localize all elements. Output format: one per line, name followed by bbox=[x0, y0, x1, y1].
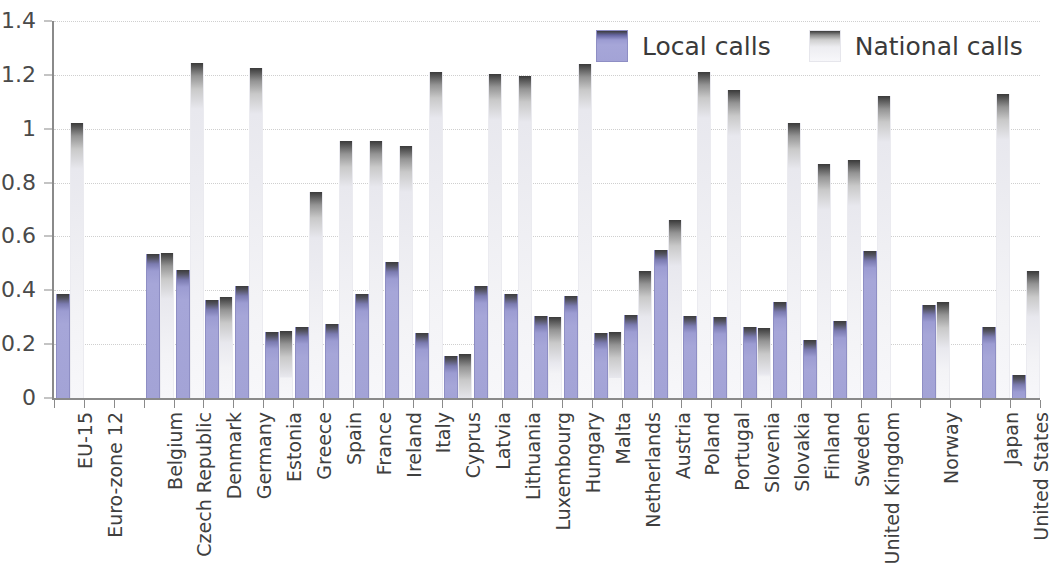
bar-group[interactable] bbox=[920, 21, 950, 398]
bar-group[interactable] bbox=[114, 21, 144, 398]
bar-group[interactable] bbox=[472, 21, 502, 398]
bar-local-calls[interactable] bbox=[355, 294, 369, 398]
bar-national-calls[interactable] bbox=[608, 332, 622, 398]
legend-entry[interactable]: Local calls bbox=[596, 30, 771, 62]
bar-national-calls[interactable] bbox=[190, 63, 204, 398]
bar-local-calls[interactable] bbox=[1012, 375, 1026, 398]
bar-local-calls[interactable] bbox=[683, 316, 697, 398]
bar-local-calls[interactable] bbox=[444, 356, 458, 398]
bar-national-calls[interactable] bbox=[668, 220, 682, 398]
x-tick-mark bbox=[174, 400, 175, 408]
bar-local-calls[interactable] bbox=[504, 294, 518, 398]
bar-group[interactable] bbox=[293, 21, 323, 398]
bar-local-calls[interactable] bbox=[56, 294, 70, 398]
bar-group[interactable] bbox=[592, 21, 622, 398]
bar-group[interactable] bbox=[771, 21, 801, 398]
bar-national-calls[interactable] bbox=[518, 76, 532, 398]
bar-local-calls[interactable] bbox=[982, 327, 996, 398]
bar-national-calls[interactable] bbox=[638, 271, 652, 398]
bar-local-calls[interactable] bbox=[803, 340, 817, 398]
bar-local-calls[interactable] bbox=[474, 286, 488, 398]
bar-group[interactable] bbox=[950, 21, 980, 398]
bar-national-calls[interactable] bbox=[817, 164, 831, 398]
bar-national-calls[interactable] bbox=[219, 297, 233, 398]
bar-local-calls[interactable] bbox=[594, 333, 608, 398]
bar-local-calls[interactable] bbox=[863, 251, 877, 398]
bar-group[interactable] bbox=[861, 21, 891, 398]
bar-national-calls[interactable] bbox=[847, 160, 861, 398]
x-tick-mark bbox=[1040, 400, 1041, 408]
bar-group[interactable] bbox=[681, 21, 711, 398]
bar-national-calls[interactable] bbox=[877, 96, 891, 398]
bar-group[interactable] bbox=[233, 21, 263, 398]
bar-group[interactable] bbox=[831, 21, 861, 398]
bar-local-calls[interactable] bbox=[205, 300, 219, 398]
bar-national-calls[interactable] bbox=[429, 72, 443, 398]
bar-group[interactable] bbox=[383, 21, 413, 398]
bar-local-calls[interactable] bbox=[265, 332, 279, 398]
bar-local-calls[interactable] bbox=[922, 305, 936, 398]
bar-local-calls[interactable] bbox=[743, 327, 757, 398]
bar-national-calls[interactable] bbox=[548, 317, 562, 398]
bar-group[interactable] bbox=[174, 21, 204, 398]
bar-local-calls[interactable] bbox=[385, 262, 399, 398]
bar-national-calls[interactable] bbox=[458, 354, 472, 398]
bar-national-calls[interactable] bbox=[279, 331, 293, 398]
bar-national-calls[interactable] bbox=[249, 68, 263, 398]
bar-local-calls[interactable] bbox=[654, 250, 668, 398]
bar-local-calls[interactable] bbox=[235, 286, 249, 398]
bar-local-calls[interactable] bbox=[624, 315, 638, 398]
bar-local-calls[interactable] bbox=[146, 254, 160, 398]
bar-group[interactable] bbox=[353, 21, 383, 398]
bar-local-calls[interactable] bbox=[176, 270, 190, 398]
bar-group[interactable] bbox=[532, 21, 562, 398]
bar-group[interactable] bbox=[54, 21, 84, 398]
bar-national-calls[interactable] bbox=[399, 146, 413, 398]
bar-national-calls[interactable] bbox=[309, 192, 323, 398]
bar-group[interactable] bbox=[891, 21, 921, 398]
bar-group[interactable] bbox=[652, 21, 682, 398]
bar-national-calls[interactable] bbox=[339, 141, 353, 398]
bar-national-calls[interactable] bbox=[578, 64, 592, 398]
bar-local-calls[interactable] bbox=[773, 302, 787, 398]
bar-group[interactable] bbox=[741, 21, 771, 398]
bar-local-calls[interactable] bbox=[713, 317, 727, 398]
bar-national-calls[interactable] bbox=[996, 94, 1010, 398]
bar-local-calls[interactable] bbox=[564, 296, 578, 398]
bar-local-calls[interactable] bbox=[415, 333, 429, 398]
bar-national-calls[interactable] bbox=[936, 302, 950, 398]
bar-group[interactable] bbox=[203, 21, 233, 398]
bar-group[interactable] bbox=[502, 21, 532, 398]
bar-national-calls[interactable] bbox=[727, 90, 741, 398]
bar-national-calls[interactable] bbox=[488, 74, 502, 398]
bar-local-calls[interactable] bbox=[325, 324, 339, 398]
x-tick-mark bbox=[532, 400, 533, 408]
bar-national-calls[interactable] bbox=[697, 72, 711, 398]
bar-group[interactable] bbox=[84, 21, 114, 398]
bar-national-calls[interactable] bbox=[160, 253, 174, 398]
bar-group[interactable] bbox=[263, 21, 293, 398]
bar-group[interactable] bbox=[801, 21, 831, 398]
bar-local-calls[interactable] bbox=[295, 327, 309, 398]
y-tick-label: 0.8 bbox=[1, 172, 36, 194]
bar-group[interactable] bbox=[562, 21, 592, 398]
x-axis-label: Sweden bbox=[853, 412, 872, 487]
legend-entry[interactable]: National calls bbox=[809, 30, 1023, 62]
bar-national-calls[interactable] bbox=[787, 123, 801, 398]
bar-national-calls[interactable] bbox=[1026, 271, 1040, 398]
bar-group[interactable] bbox=[323, 21, 353, 398]
bar-local-calls[interactable] bbox=[833, 321, 847, 398]
bar-national-calls[interactable] bbox=[70, 123, 84, 398]
bar-group[interactable] bbox=[144, 21, 174, 398]
bar-group[interactable] bbox=[980, 21, 1010, 398]
bar-group[interactable] bbox=[622, 21, 652, 398]
bar-group[interactable] bbox=[1010, 21, 1040, 398]
x-tick-mark bbox=[622, 400, 623, 408]
bar-local-calls[interactable] bbox=[534, 316, 548, 398]
bar-national-calls[interactable] bbox=[757, 328, 771, 398]
bar-group[interactable] bbox=[442, 21, 472, 398]
local-calls-swatch bbox=[596, 30, 628, 62]
bar-national-calls[interactable] bbox=[369, 141, 383, 398]
bar-group[interactable] bbox=[413, 21, 443, 398]
bar-group[interactable] bbox=[711, 21, 741, 398]
